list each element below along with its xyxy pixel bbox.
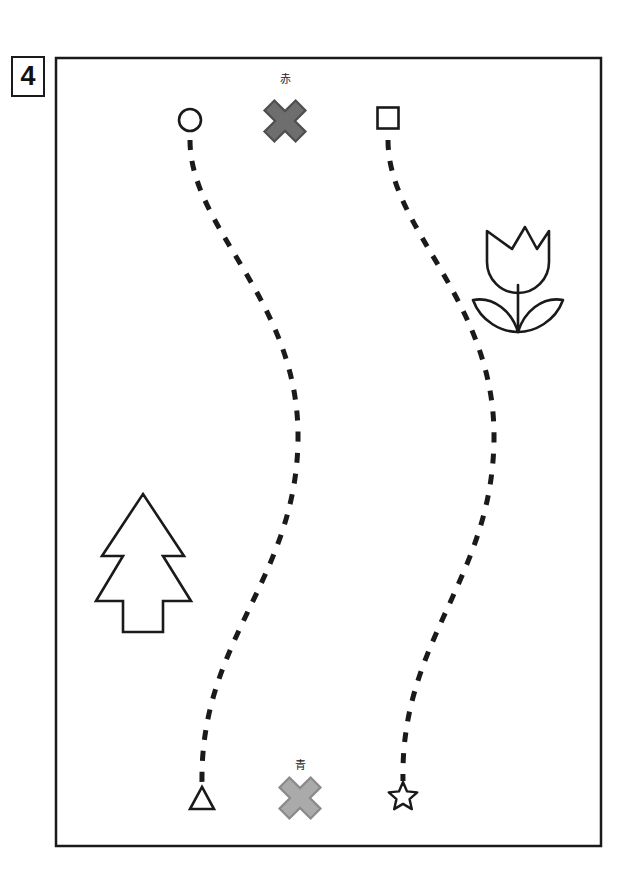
worksheet-page: 4 赤 青 xyxy=(0,0,629,893)
endpoint-circle xyxy=(179,109,201,131)
red-cross-kanji-label: 赤 xyxy=(270,74,300,85)
endpoint-square xyxy=(378,108,399,129)
blue-cross-kanji-label: 青 xyxy=(285,760,315,771)
problem-number-badge: 4 xyxy=(11,56,45,97)
problem-number-label: 4 xyxy=(20,63,35,90)
worksheet-frame xyxy=(56,58,601,846)
